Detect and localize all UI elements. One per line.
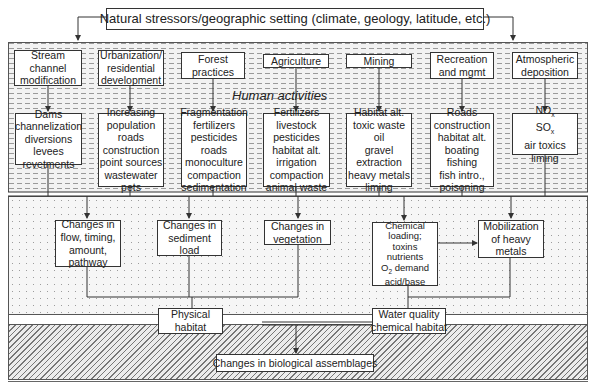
detail-text: construction [103, 144, 160, 157]
detail-text: poisoning [440, 181, 485, 194]
detail-text: oil [374, 131, 385, 144]
habitat-text: Physical [171, 308, 210, 321]
changes-sediment-box: Changes in sediment load [157, 220, 222, 256]
detail-text: boating [445, 144, 479, 157]
change-text: vegetation [273, 233, 321, 246]
detail-text: Fragmentation [180, 106, 248, 119]
chemical-loading-box: Chemical loading; toxins nutrients O2 de… [372, 222, 438, 286]
category-text: Agriculture [271, 55, 321, 68]
category-forest-practices: Forest practices [181, 52, 245, 79]
detail-text: roads [201, 144, 227, 157]
category-text: Recreation [437, 53, 488, 66]
detail-text: Dams [35, 108, 62, 121]
detail-text: irrigation [276, 156, 316, 169]
change-text: metals [496, 245, 527, 258]
detail-stream-channel: Dams channelization diversions levees re… [15, 113, 82, 165]
category-text: Stream [31, 49, 65, 62]
category-text: residential [107, 62, 155, 75]
detail-text: levees [33, 145, 63, 158]
category-text: practices [192, 66, 234, 79]
category-text: development [101, 74, 161, 87]
detail-text: heavy metals [348, 169, 410, 182]
biological-assemblages-box: Changes in biological assemblages [216, 354, 374, 372]
detail-text: extraction [356, 156, 402, 169]
natural-stressors-box: Natural stressors/geographic setting (cl… [106, 8, 484, 30]
detail-atmospheric: NOx SOx air toxics liming [512, 113, 578, 155]
change-text: pathway [68, 256, 107, 269]
outcome-text: Changes in biological assemblages [213, 357, 378, 370]
category-text: channel [30, 62, 67, 75]
detail-agriculture: Fertilizers livestock pesticides habitat… [263, 113, 330, 187]
detail-text: Increasing [107, 106, 155, 119]
category-text: Mining [364, 55, 395, 68]
detail-text: sedimentation [181, 181, 246, 194]
detail-text: channelization [15, 120, 82, 133]
detail-text: fish intro., [439, 169, 485, 182]
category-atmospheric: Atmospheric deposition [512, 52, 578, 79]
detail-text: toxic waste [353, 119, 405, 132]
detail-text: pets [121, 181, 141, 194]
detail-text: animal waste [266, 181, 327, 194]
detail-text: habitat alt. [438, 131, 486, 144]
detail-text: liming [365, 181, 392, 194]
category-text: Urbanization/ [100, 49, 162, 62]
category-text: modification [20, 74, 76, 87]
detail-text: livestock [276, 119, 316, 132]
detail-forest-practices: Fragmentation fertilizers pesticides roa… [181, 113, 247, 187]
change-text: Changes in [271, 220, 324, 233]
change-text: flow, timing, [61, 231, 116, 244]
detail-text: point sources [100, 156, 162, 169]
category-text: Forest [198, 53, 228, 66]
category-text: deposition [521, 66, 569, 79]
mobilization-box: Mobilization of heavy metals [478, 220, 544, 258]
change-text: of heavy [491, 233, 531, 246]
change-text: sediment [168, 232, 211, 245]
detail-text: habitat alt. [272, 144, 320, 157]
detail-text: roads [118, 131, 144, 144]
habitat-text: habitat [175, 321, 207, 334]
change-text: O2 demand [381, 263, 429, 277]
change-text: nutrients [387, 252, 423, 263]
detail-text: SOx [536, 121, 555, 139]
detail-text: Habitat alt. [354, 106, 404, 119]
category-agriculture: Agriculture [263, 54, 329, 68]
detail-urbanization: Increasing population roads construction… [98, 113, 164, 187]
detail-text: compaction [270, 169, 324, 182]
change-text: acid/base [385, 277, 426, 288]
detail-text: construction [434, 119, 491, 132]
detail-text: air toxics [524, 139, 565, 152]
habitat-text: Water quality [379, 308, 440, 321]
physical-habitat-box: Physical habitat [158, 308, 223, 334]
human-activities-label: Human activities [232, 88, 327, 103]
category-urbanization: Urbanization/ residential development [98, 50, 164, 86]
detail-text: NOx [535, 104, 554, 122]
detail-text: Fertilizers [274, 106, 320, 119]
change-text: load [180, 244, 200, 257]
detail-text: pesticides [191, 131, 238, 144]
detail-text: pesticides [273, 131, 320, 144]
category-text: and mgmt [439, 66, 486, 79]
category-recreation: Recreation and mgmt [430, 52, 494, 79]
changes-flow-box: Changes in flow, timing, amount, pathway [55, 220, 121, 267]
detail-text: fishing [447, 156, 477, 169]
category-text: Atmospheric [516, 53, 574, 66]
detail-text: Roads [447, 106, 477, 119]
change-text: loading; [388, 231, 421, 242]
change-text: Changes in [163, 219, 216, 232]
change-text: Changes in [61, 218, 114, 231]
category-mining: Mining [346, 54, 412, 68]
changes-vegetation-box: Changes in vegetation [264, 220, 331, 245]
habitat-text: chemical habitat [371, 321, 447, 334]
detail-text: liming [531, 152, 558, 165]
detail-text: compaction [187, 169, 241, 182]
detail-text: monoculture [185, 156, 243, 169]
detail-text: revetments [23, 158, 75, 171]
change-text: amount, [69, 244, 107, 257]
detail-text: fertilizers [193, 119, 235, 132]
change-text: Mobilization [483, 220, 538, 233]
detail-text: wastewater [104, 169, 157, 182]
water-quality-box: Water quality chemical habitat [372, 308, 446, 334]
detail-mining: Habitat alt. toxic waste oil gravel extr… [346, 113, 412, 187]
detail-text: population [107, 119, 155, 132]
detail-text: gravel [365, 144, 394, 157]
